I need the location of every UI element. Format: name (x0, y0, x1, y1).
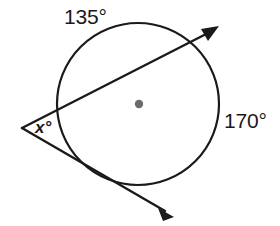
tangent-line (22, 128, 165, 211)
secant-arrowhead-icon (201, 26, 219, 41)
circle-center-dot (135, 100, 143, 108)
arc-label-170: 170° (224, 110, 267, 131)
vertex-angle-label-x: x° (35, 119, 51, 136)
secant-line (22, 32, 211, 129)
arc-label-135: 135° (64, 6, 107, 27)
geometry-figure: 135° 170° x° (0, 0, 280, 226)
tangent-arrowhead-icon (158, 208, 174, 221)
